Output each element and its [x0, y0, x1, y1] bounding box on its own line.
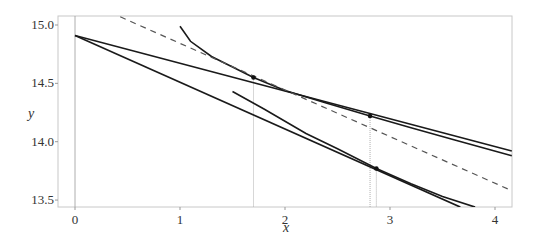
dashed-line	[120, 17, 512, 191]
x-tick-label: 0	[72, 212, 79, 227]
data-marker	[251, 75, 256, 80]
y-tick-label: 14.0	[31, 134, 54, 149]
y-tick-label: 13.5	[31, 192, 54, 207]
x-tick-label: 4	[492, 212, 499, 227]
y-axis-ticks: 13.514.014.515.0	[31, 17, 58, 207]
x-tick-label: 3	[387, 212, 394, 227]
y-tick-label: 14.5	[31, 75, 54, 90]
plot-frame	[58, 16, 512, 207]
x-tick-label: 1	[177, 212, 184, 227]
y-axis-label: y	[26, 106, 35, 121]
x-axis-label: x	[282, 220, 290, 235]
data-marker	[368, 114, 373, 119]
chart: 01234 13.514.014.515.0 x y	[0, 0, 541, 243]
series-group	[75, 17, 512, 207]
data-marker	[374, 166, 379, 171]
y-tick-label: 15.0	[31, 17, 54, 32]
curve-upper	[180, 26, 512, 156]
